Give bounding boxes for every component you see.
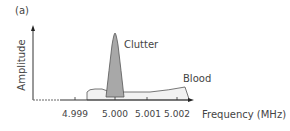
y-axis-label: Amplitude (16, 39, 27, 90)
x-axis-label: Frequency (MHz) (202, 109, 286, 120)
x-tick-label: 5.001 (135, 109, 161, 119)
x-tick-label: 5.000 (102, 109, 128, 119)
clutter-peak (106, 33, 124, 97)
x-axis-arrow-icon (188, 98, 194, 102)
blood-band (87, 87, 189, 100)
y-axis-arrow-icon (31, 25, 35, 31)
x-tick-label: 4.999 (62, 109, 88, 119)
chart: 4.999 5.000 5.001 5.002 Frequency (MHz) … (0, 0, 290, 131)
clutter-annotation: Clutter (124, 39, 159, 50)
blood-annotation: Blood (183, 73, 211, 84)
x-tick-label: 5.002 (164, 109, 190, 119)
